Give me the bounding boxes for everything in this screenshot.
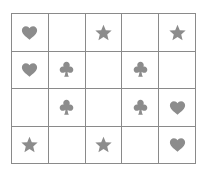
grid-cell-r3-c5[interactable] <box>159 89 196 127</box>
star-icon <box>94 135 113 154</box>
grid-cell-r1-c5[interactable] <box>159 14 196 52</box>
club-icon <box>57 60 76 79</box>
grid-cell-r1-c4[interactable] <box>122 14 159 52</box>
star-icon <box>94 23 113 42</box>
heart-icon <box>20 23 39 42</box>
empty-cell <box>177 69 178 70</box>
heart-icon <box>168 98 187 117</box>
symbol-grid <box>11 13 196 164</box>
grid-cell-r2-c1[interactable] <box>12 52 49 90</box>
grid-cell-r4-c5[interactable] <box>159 127 196 165</box>
grid-cell-r4-c1[interactable] <box>12 127 49 165</box>
empty-cell <box>140 32 141 33</box>
grid-cell-r2-c3[interactable] <box>86 52 123 90</box>
grid-cell-r2-c5[interactable] <box>159 52 196 90</box>
empty-cell <box>103 107 104 108</box>
grid-cell-r2-c2[interactable] <box>49 52 86 90</box>
empty-cell <box>66 32 67 33</box>
grid-cell-r1-c2[interactable] <box>49 14 86 52</box>
grid-cell-r2-c4[interactable] <box>122 52 159 90</box>
club-icon <box>131 98 150 117</box>
heart-icon <box>20 60 39 79</box>
club-icon <box>57 98 76 117</box>
empty-cell <box>103 69 104 70</box>
grid-cell-r4-c2[interactable] <box>49 127 86 165</box>
grid-cell-r3-c1[interactable] <box>12 89 49 127</box>
heart-icon <box>168 135 187 154</box>
club-icon <box>131 60 150 79</box>
grid-cell-r3-c3[interactable] <box>86 89 123 127</box>
grid-cell-r4-c4[interactable] <box>122 127 159 165</box>
grid-cell-r3-c2[interactable] <box>49 89 86 127</box>
grid-cell-r4-c3[interactable] <box>86 127 123 165</box>
grid-cell-r3-c4[interactable] <box>122 89 159 127</box>
grid-cell-r1-c3[interactable] <box>86 14 123 52</box>
empty-cell <box>66 144 67 145</box>
star-icon <box>168 23 187 42</box>
star-icon <box>20 135 39 154</box>
empty-cell <box>29 107 30 108</box>
grid-cell-r1-c1[interactable] <box>12 14 49 52</box>
empty-cell <box>140 144 141 145</box>
